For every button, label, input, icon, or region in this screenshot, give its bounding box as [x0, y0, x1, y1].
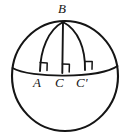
right-angle-mark-C	[62, 64, 69, 72]
segment-B-to-C	[62, 22, 63, 73]
geometry-figure: B A C C'	[0, 0, 130, 138]
meridian-arc-B-to-A	[40, 22, 63, 71]
point-label-b: B	[58, 2, 66, 15]
point-label-c-prime: C'	[76, 76, 87, 89]
point-label-a: A	[33, 76, 41, 89]
meridian-arc-B-to-Cprime	[63, 22, 85, 70]
right-angle-mark-Cprime	[85, 62, 92, 70]
equator-arc	[13, 66, 118, 76]
apex-vertex-dot	[62, 21, 65, 24]
point-label-c: C	[55, 76, 64, 89]
figure-canvas	[0, 0, 130, 138]
